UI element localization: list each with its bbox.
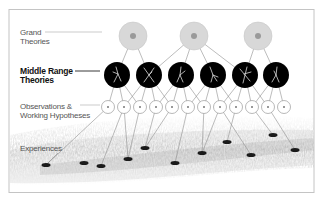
grand-theory-nodes xyxy=(119,22,272,50)
observation-center-icon xyxy=(235,106,237,108)
experience-point-icon xyxy=(97,164,106,168)
middle-label-line2: Theories xyxy=(20,76,73,85)
experience-point-icon xyxy=(124,157,133,161)
observation-center-icon xyxy=(251,106,253,108)
observation-center-icon xyxy=(267,106,269,108)
observation-center-icon xyxy=(171,106,173,108)
observation-center-icon xyxy=(155,106,157,108)
experience-point-icon xyxy=(269,133,278,137)
experience-point-icon xyxy=(80,161,89,165)
observation-center-icon xyxy=(139,106,141,108)
grand-label-line2: Theories xyxy=(20,37,50,46)
observation-center-icon xyxy=(107,106,109,108)
middle-range-theory-circle-icon xyxy=(168,62,194,88)
experience-point-icon xyxy=(171,161,180,165)
experience-point-icon xyxy=(198,151,207,155)
observation-center-icon xyxy=(203,106,205,108)
experience-point-icon xyxy=(291,148,300,152)
grand-label-line1: Grand xyxy=(20,28,50,37)
experience-point-icon xyxy=(42,163,51,167)
observation-center-icon xyxy=(283,106,285,108)
experience-point-icon xyxy=(223,140,232,144)
experience-point-icon xyxy=(247,153,256,157)
observation-center-icon xyxy=(123,106,125,108)
grand-theory-center-icon xyxy=(255,33,261,39)
observations-label-line1: Observations & xyxy=(20,102,90,111)
middle-range-theory-circle-icon xyxy=(104,62,130,88)
observation-center-icon xyxy=(219,106,221,108)
experiences-label-line1: Experiences xyxy=(20,144,62,153)
observations-label-line2: Working Hypotheses xyxy=(20,111,90,120)
grand-theories-label: Grand Theories xyxy=(20,28,50,46)
experiences-label: Experiences xyxy=(20,144,62,153)
grand-theory-center-icon xyxy=(130,33,136,39)
grand-theory-center-icon xyxy=(191,33,197,39)
middle-range-theories-label: Middle Range Theories xyxy=(20,67,73,85)
experience-point-icon xyxy=(141,146,150,150)
observations-label: Observations & Working Hypotheses xyxy=(20,102,90,120)
observation-center-icon xyxy=(187,106,189,108)
